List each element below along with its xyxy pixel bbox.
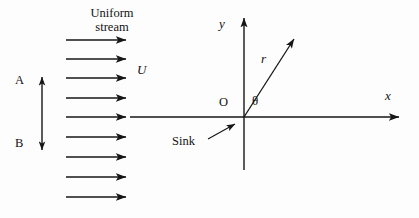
uniform-stream-sink-diagram: Uniform stream U A B O Sink y x r θ bbox=[0, 0, 419, 218]
angle-label: θ bbox=[252, 94, 258, 109]
diagram-canvas bbox=[0, 0, 419, 218]
point-b-label: B bbox=[15, 136, 23, 150]
uniform-stream-label-line1: Uniform bbox=[70, 6, 154, 20]
sink-leader-line bbox=[208, 124, 235, 139]
point-a-label: A bbox=[15, 73, 24, 87]
origin-label: O bbox=[219, 95, 228, 109]
y-axis-label: y bbox=[219, 17, 225, 32]
velocity-label: U bbox=[137, 63, 146, 78]
uniform-stream-label: Uniform stream bbox=[70, 6, 154, 34]
uniform-stream-label-line2: stream bbox=[70, 20, 154, 34]
sink-label: Sink bbox=[172, 134, 195, 148]
x-axis-label: x bbox=[385, 89, 391, 104]
stream-arrows-group bbox=[66, 40, 126, 197]
radius-label: r bbox=[261, 52, 266, 67]
